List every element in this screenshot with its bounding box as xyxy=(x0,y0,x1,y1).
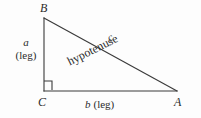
side-a-variable: a xyxy=(10,37,42,48)
side-a-leg-text: (leg) xyxy=(10,50,42,61)
hypotenuse-line xyxy=(44,18,177,91)
side-b-leg-text: (leg) xyxy=(94,98,115,110)
vertex-label-a: A xyxy=(174,96,181,108)
vertex-label-b: B xyxy=(40,2,47,14)
right-angle-marker-icon xyxy=(44,81,52,90)
side-b-variable: b xyxy=(85,98,91,110)
side-label-a: a (leg) xyxy=(10,37,42,61)
vertex-label-c: C xyxy=(38,96,46,108)
right-triangle-figure: B C A a (leg) b(leg) c hypotenuse xyxy=(0,0,201,118)
side-label-b: b(leg) xyxy=(85,95,114,111)
